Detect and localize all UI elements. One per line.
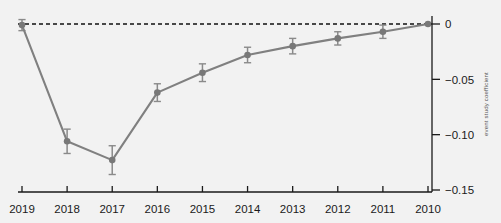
chart-background bbox=[0, 0, 501, 223]
data-point-marker bbox=[109, 157, 116, 164]
data-point-marker bbox=[244, 52, 251, 59]
y-axis-tick-label: −0.10 bbox=[445, 129, 474, 141]
x-axis-tick-label: 2011 bbox=[371, 203, 396, 215]
data-point-marker bbox=[199, 69, 206, 76]
x-axis-tick-label: 2016 bbox=[145, 203, 171, 215]
event-study-chart: 2019201820172016201520142013201220112010… bbox=[0, 0, 501, 223]
data-point-marker bbox=[425, 21, 432, 28]
x-axis-tick-label: 2017 bbox=[99, 203, 125, 215]
data-point-marker bbox=[289, 43, 296, 50]
x-axis-tick-label: 2019 bbox=[9, 203, 35, 215]
data-point-marker bbox=[64, 138, 71, 145]
x-axis-tick-label: 2014 bbox=[235, 203, 261, 215]
x-axis-tick-label: 2012 bbox=[325, 203, 351, 215]
y-axis-tick-label: −0.15 bbox=[445, 184, 474, 196]
x-axis-tick-label: 2010 bbox=[415, 203, 441, 215]
data-point-marker bbox=[19, 22, 26, 29]
chart-canvas: 2019201820172016201520142013201220112010… bbox=[0, 0, 501, 223]
y-axis-tick-label: −0.05 bbox=[445, 74, 474, 86]
data-point-marker bbox=[380, 28, 387, 35]
data-point-marker bbox=[334, 35, 341, 42]
x-axis-tick-label: 2015 bbox=[190, 203, 216, 215]
y-axis-title: event study coefficient bbox=[483, 72, 489, 136]
y-axis-tick-label: 0 bbox=[445, 18, 451, 30]
data-point-marker bbox=[154, 89, 161, 96]
x-axis-tick-label: 2013 bbox=[280, 203, 306, 215]
x-axis-tick-label: 2018 bbox=[54, 203, 80, 215]
